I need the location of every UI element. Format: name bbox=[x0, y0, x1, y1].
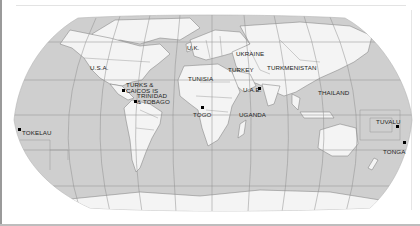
label-turkmenistan: TURKMENISTAN bbox=[267, 65, 317, 72]
label-tonga: TONGA bbox=[383, 149, 405, 156]
label-tuvalu: TUVALU bbox=[376, 119, 401, 126]
marker-tonga bbox=[403, 141, 406, 144]
label-uk: U.K. bbox=[187, 45, 199, 52]
label-usa: U.S.A. bbox=[90, 65, 108, 72]
bottom-border bbox=[0, 224, 420, 226]
label-trinidad-line2: & TOBAGO bbox=[137, 99, 170, 106]
label-ukraine: UKRAINE bbox=[236, 51, 264, 58]
label-tunisia: TUNISIA bbox=[188, 76, 213, 83]
label-uganda: UGANDA bbox=[239, 112, 266, 119]
marker-tokelau bbox=[18, 128, 21, 131]
label-thailand: THAILAND bbox=[318, 90, 349, 97]
label-uae: U.A.E. bbox=[243, 87, 261, 94]
marker-togo bbox=[201, 106, 204, 109]
label-tokelau: TOKELAU bbox=[22, 130, 51, 137]
label-turkey: TURKEY bbox=[228, 67, 254, 74]
marker-turks-caicos bbox=[122, 89, 125, 92]
label-togo: TOGO bbox=[193, 112, 212, 119]
